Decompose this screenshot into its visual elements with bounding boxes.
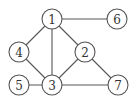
graph-diagram: 1642537: [0, 0, 136, 101]
node-2: 2: [75, 42, 95, 62]
node-1: 1: [42, 9, 62, 29]
node-6: 6: [107, 9, 127, 29]
node-label: 2: [81, 46, 89, 60]
node-label: 1: [48, 13, 56, 27]
node-label: 6: [113, 13, 121, 27]
node-label: 5: [15, 79, 23, 93]
node-label: 7: [114, 79, 122, 93]
nodes-layer: 1642537: [9, 9, 128, 95]
node-label: 4: [15, 46, 23, 60]
edges-layer: [19, 19, 118, 85]
node-4: 4: [9, 42, 29, 62]
node-3: 3: [42, 75, 62, 95]
node-7: 7: [108, 75, 128, 95]
node-5: 5: [9, 75, 29, 95]
node-label: 3: [48, 79, 56, 93]
